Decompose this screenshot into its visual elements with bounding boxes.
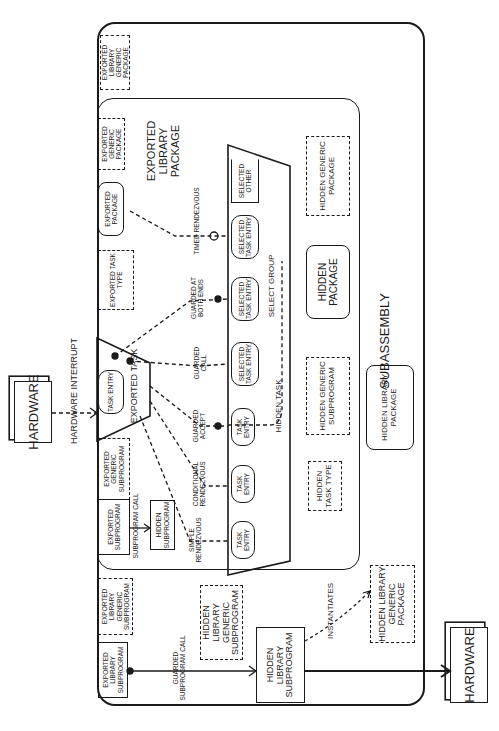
diagram-canvas: SUBASSEMBLY EXPORTED LIBRARY PACKAGE EXP… [0,0,499,731]
connections [0,0,499,731]
